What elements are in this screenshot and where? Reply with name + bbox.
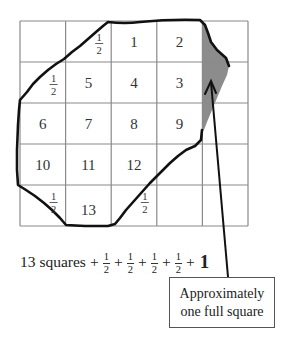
cell-count-label: 10 — [35, 157, 50, 173]
fraction-numerator: 1 — [97, 32, 102, 43]
fraction-numerator: 1 — [51, 191, 56, 202]
cell-count-label: 11 — [81, 157, 95, 173]
fraction-denominator: 2 — [152, 264, 157, 275]
fraction-denominator: 2 — [128, 264, 133, 275]
fraction-denominator: 2 — [51, 86, 56, 97]
cell-count-label: 7 — [85, 116, 93, 132]
fraction-numerator: 1 — [175, 252, 182, 264]
callout-arrow — [211, 82, 228, 277]
equation-plus: + — [162, 253, 171, 271]
cell-labels: 12345678910111213 — [35, 34, 183, 218]
equation-total-addend: 1 — [200, 251, 210, 273]
fraction-numerator: 1 — [103, 252, 110, 264]
shaded-partial-region — [202, 22, 229, 132]
equation-fraction: 1 2 — [151, 252, 158, 275]
cell-count-label: 4 — [130, 75, 138, 91]
cell-count-label: 9 — [176, 116, 184, 132]
fraction-denominator: 2 — [142, 204, 147, 215]
equation-fraction: 1 2 — [175, 252, 182, 275]
cell-count-label: 8 — [130, 116, 138, 132]
half-square-label: 12 — [50, 73, 58, 97]
cell-count-label: 13 — [81, 202, 96, 218]
fraction-denominator: 2 — [176, 264, 181, 275]
fraction-numerator: 1 — [142, 191, 147, 202]
fraction-numerator: 1 — [127, 252, 134, 264]
cell-count-label: 3 — [176, 75, 184, 91]
cell-count-label: 12 — [127, 157, 142, 173]
equation-fraction: 1 2 — [127, 252, 134, 275]
half-square-label: 12 — [50, 191, 58, 215]
equation-lead: 13 squares — [20, 253, 86, 271]
cell-count-label: 6 — [39, 116, 47, 132]
callout-line-2: one full square — [170, 303, 274, 321]
irregular-shape-outline — [17, 20, 229, 226]
callout-line-1: Approximately — [170, 285, 274, 303]
fraction-denominator: 2 — [97, 45, 102, 56]
equation-plus: + — [186, 253, 195, 271]
half-square-label: 12 — [141, 191, 149, 215]
callout-box: Approximately one full square — [169, 277, 275, 328]
equation-plus: + — [138, 253, 147, 271]
equation-plus: + — [114, 253, 123, 271]
half-square-label: 12 — [95, 32, 103, 56]
area-equation: 13 squares + 1 2 + 1 2 + 1 2 + 1 2 + 1 — [20, 247, 209, 277]
equation-plus: + — [90, 253, 99, 271]
fraction-numerator: 1 — [151, 252, 158, 264]
fraction-denominator: 2 — [51, 204, 56, 215]
fraction-numerator: 1 — [51, 73, 56, 84]
cell-count-label: 2 — [176, 34, 184, 50]
equation-fraction: 1 2 — [103, 252, 110, 275]
cell-count-label: 5 — [85, 75, 93, 91]
fraction-denominator: 2 — [104, 264, 109, 275]
cell-count-label: 1 — [130, 34, 138, 50]
